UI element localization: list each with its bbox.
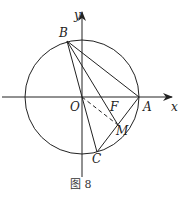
label-y-axis: y [73,8,81,22]
segment-BO [67,41,82,97]
label-M: M [115,124,129,138]
label-A: A [142,100,152,114]
label-x-axis: x [171,100,178,114]
segment-OC [82,97,97,152]
label-C: C [92,152,101,166]
label-O: O [70,100,80,114]
figure-caption: 图 8 [70,178,92,191]
diagram-canvas: y x B O F A M C 图 8 [0,0,188,197]
segment-BA [67,41,139,97]
label-F: F [109,100,119,114]
label-B: B [58,26,68,40]
